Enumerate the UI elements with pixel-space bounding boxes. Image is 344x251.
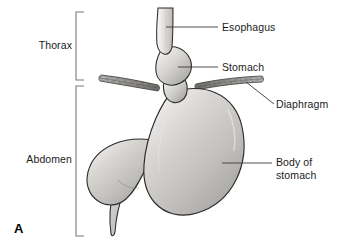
thorax-bracket bbox=[76, 12, 84, 80]
callout-label-body-of-stomach-line1: Body of bbox=[276, 156, 316, 169]
esophagus bbox=[157, 8, 173, 54]
stomach-antrum bbox=[87, 139, 152, 205]
region-label-abdomen: Abdomen bbox=[0, 153, 72, 166]
callout-label-esophagus: Esophagus bbox=[222, 21, 275, 34]
diaphragm-left-wing bbox=[99, 75, 160, 91]
region-label-thorax: Thorax bbox=[8, 39, 72, 52]
anatomy-figure: Thorax Abdomen Esophagus Stomach Diaphra… bbox=[0, 0, 344, 251]
callout-label-body-of-stomach: Body of stomach bbox=[276, 156, 316, 181]
panel-letter-label: A bbox=[14, 221, 23, 236]
stomach-diagram-svg bbox=[0, 0, 344, 251]
abdomen-bracket bbox=[76, 86, 84, 236]
callout-label-stomach: Stomach bbox=[222, 61, 264, 74]
stomach-body bbox=[144, 89, 244, 215]
leader-line-diaphragm bbox=[246, 82, 274, 104]
callout-label-diaphragm: Diaphragm bbox=[276, 98, 328, 111]
callout-label-body-of-stomach-line2: stomach bbox=[276, 169, 316, 182]
